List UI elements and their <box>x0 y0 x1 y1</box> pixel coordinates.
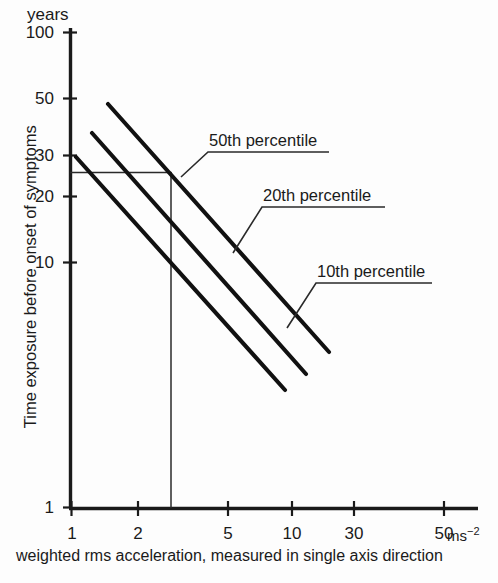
x-axis-unit-base: ms <box>447 527 467 544</box>
x-axis-caption: weighted rms acceleration, measured in s… <box>16 546 486 566</box>
leader-line-p50 <box>181 152 329 177</box>
y-tick-label-100: 100 <box>8 24 54 41</box>
series-label-p50: 50th percentile <box>209 132 317 149</box>
x-tick-label-1: 1 <box>49 525 95 542</box>
series-label-p10: 10th percentile <box>317 263 425 280</box>
x-axis-unit-label: ms−2 <box>447 526 480 543</box>
data-line-p10 <box>76 157 285 390</box>
y-axis-unit-label: years <box>27 6 69 23</box>
x-tick-label-2: 2 <box>115 525 161 542</box>
reference-lines <box>70 172 172 508</box>
x-tick-label-5: 5 <box>205 525 251 542</box>
x-tick-label-30: 30 <box>331 525 377 542</box>
chart-figure: years 100 50 30 20 10 1 1 2 5 10 30 50 m… <box>0 0 498 583</box>
leader-line-p10 <box>287 283 432 328</box>
y-tick-label-1: 1 <box>8 499 54 516</box>
data-line-p20 <box>92 133 306 374</box>
x-tick-label-10: 10 <box>269 525 315 542</box>
x-axis-unit-exponent: −2 <box>467 525 480 537</box>
y-tick-label-50: 50 <box>8 90 54 107</box>
series-label-p20: 20th percentile <box>263 187 371 204</box>
leader-line-p20 <box>233 207 385 253</box>
y-axis-title: Time exposure before onset of symptoms <box>22 128 39 428</box>
chart-canvas <box>0 0 498 583</box>
leader-lines <box>181 152 432 328</box>
